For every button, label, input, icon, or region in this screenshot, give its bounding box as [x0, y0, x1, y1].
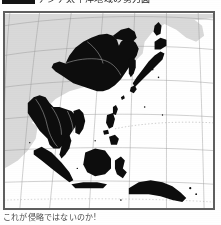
page-header: アジア太平洋地域の勢力図	[0, 0, 221, 9]
header-clip-fade	[0, 4, 221, 9]
map-canvas	[4, 12, 214, 209]
figure-caption: これが侵略ではないのか!	[3, 213, 97, 223]
map-figure	[3, 11, 215, 210]
